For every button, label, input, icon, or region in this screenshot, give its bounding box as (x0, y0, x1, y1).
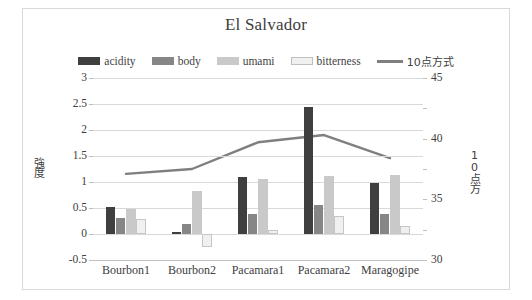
bar-body-bourbon1 (116, 218, 126, 234)
y-axis-right-tick-label: 40 (431, 133, 475, 145)
bar-acidity-maragogipe (370, 183, 380, 234)
gridline (93, 234, 423, 235)
y-axis-left-tick-label: 2 (43, 124, 87, 136)
chart-legend: acidity body umami bitterness 10点方式 (23, 53, 509, 69)
y-axis-left-tick-label: 2.5 (43, 98, 87, 110)
plot-area (93, 78, 423, 260)
legend-swatch-bitterness (291, 57, 313, 65)
x-axis-label-maragogipe: Maragogipe (357, 263, 423, 278)
bar-bitterness-pacamara2 (334, 216, 344, 234)
bar-body-maragogipe (380, 214, 390, 234)
bar-bitterness-maragogipe (400, 226, 410, 234)
legend-line-marker (377, 60, 403, 63)
legend-label-body: body (178, 55, 201, 67)
y-axis-right-tickmark (423, 230, 427, 231)
bar-umami-bourbon2 (192, 191, 202, 234)
bar-bitterness-bourbon1 (136, 219, 146, 234)
y-axis-left-tick-label: 3 (43, 72, 87, 84)
bar-acidity-bourbon1 (106, 207, 116, 234)
bar-body-bourbon2 (182, 224, 192, 234)
y-axis-right-tickmarks (423, 78, 428, 260)
bar-umami-pacamara1 (258, 179, 268, 234)
gridline (93, 260, 423, 261)
y-axis-left-ticks: 32.521.510.50-0.5 (37, 78, 87, 260)
y-axis-left-tick-label: 1.5 (43, 150, 87, 162)
legend-item-bitterness[interactable]: bitterness (291, 55, 361, 67)
bar-umami-maragogipe (390, 175, 400, 234)
legend-swatch-umami (217, 57, 239, 65)
bar-acidity-pacamara2 (304, 107, 314, 234)
legend-item-body[interactable]: body (152, 55, 201, 67)
line-path (126, 135, 390, 174)
bar-acidity-pacamara1 (238, 177, 248, 234)
legend-swatch-body (152, 57, 174, 65)
x-axis-label-bourbon2: Bourbon2 (159, 263, 225, 278)
chart-container: El Salvador acidity body umami bitternes… (22, 8, 510, 290)
gridline (93, 156, 423, 157)
y-axis-right-tickmark (423, 108, 427, 109)
y-axis-right-tickmark (423, 199, 427, 200)
legend-item-umami[interactable]: umami (217, 55, 275, 67)
gridline (93, 104, 423, 105)
y-axis-right-tickmark (423, 260, 427, 261)
legend-swatch-acidity (78, 57, 100, 65)
x-axis-label-bourbon1: Bourbon1 (93, 263, 159, 278)
gridline (93, 78, 423, 79)
bar-body-pacamara1 (248, 214, 258, 234)
bar-bitterness-pacamara1 (268, 230, 278, 234)
y-axis-right-tick-label: 45 (431, 72, 475, 84)
legend-item-10ten-houshiki[interactable]: 10点方式 (377, 53, 454, 69)
bar-acidity-bourbon2 (172, 232, 182, 234)
legend-label-acidity: acidity (104, 55, 135, 67)
bar-umami-pacamara2 (324, 176, 334, 234)
y-axis-right-tickmark (423, 78, 427, 79)
legend-item-acidity[interactable]: acidity (78, 55, 135, 67)
bar-umami-bourbon1 (126, 209, 136, 234)
legend-label-umami: umami (243, 55, 275, 67)
y-axis-right-ticks: 45403530 (427, 78, 477, 260)
y-axis-left-tick-label: 0 (43, 228, 87, 240)
legend-label-10ten-houshiki: 10点方式 (407, 53, 454, 69)
legend-label-bitterness: bitterness (317, 55, 361, 67)
y-axis-right-tick-label: 30 (431, 254, 475, 266)
x-axis-category-labels: Bourbon1Bourbon2Pacamara1Pacamara2Marago… (93, 263, 423, 278)
bar-bitterness-bourbon2 (202, 234, 212, 247)
gridline (93, 130, 423, 131)
bar-body-pacamara2 (314, 205, 324, 234)
y-axis-right-tickmark (423, 139, 427, 140)
x-axis-label-pacamara2: Pacamara2 (291, 263, 357, 278)
x-axis-label-pacamara1: Pacamara1 (225, 263, 291, 278)
y-axis-left-tick-label: 0.5 (43, 202, 87, 214)
y-axis-left-tick-label: -0.5 (43, 254, 87, 266)
y-axis-left-tick-label: 1 (43, 176, 87, 188)
chart-title: El Salvador (23, 15, 509, 35)
y-axis-right-tickmark (423, 169, 427, 170)
y-axis-right-tick-label: 35 (431, 194, 475, 206)
